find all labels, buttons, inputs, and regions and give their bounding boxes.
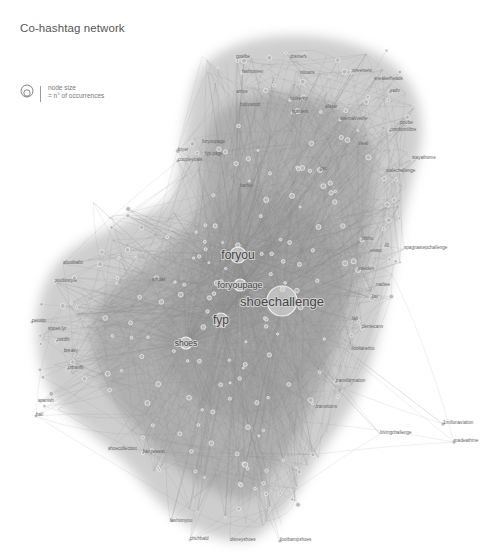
node[interactable] [183,283,186,286]
node[interactable] [211,410,215,414]
node[interactable] [295,467,297,469]
node[interactable] [334,190,337,193]
node[interactable] [243,362,247,366]
node[interactable] [139,225,144,230]
node[interactable] [100,250,104,254]
node[interactable] [151,424,154,427]
node[interactable] [309,141,314,146]
node[interactable] [246,157,250,161]
node[interactable] [178,432,182,436]
node[interactable] [212,194,215,197]
node[interactable] [284,52,287,55]
node[interactable] [222,241,224,243]
node[interactable] [225,267,227,269]
node[interactable] [43,405,46,408]
node[interactable] [389,294,394,299]
node[interactable] [264,197,269,202]
node[interactable] [174,281,176,283]
node[interactable] [246,425,251,430]
node[interactable] [290,193,295,198]
node[interactable] [364,100,369,105]
node[interactable] [194,470,197,473]
node[interactable] [39,342,42,345]
node[interactable] [38,368,42,372]
node[interactable] [336,58,341,63]
node[interactable] [234,161,238,165]
node[interactable] [323,338,325,340]
node[interactable] [267,396,270,399]
node[interactable] [246,467,249,470]
node[interactable] [138,295,142,299]
node[interactable] [351,259,356,264]
node[interactable] [297,487,299,489]
node[interactable] [281,260,285,264]
node[interactable] [316,279,319,282]
node[interactable] [262,526,264,528]
node[interactable] [344,109,348,113]
node[interactable] [142,436,145,439]
node[interactable] [201,409,204,412]
node[interactable] [245,341,247,343]
node[interactable] [140,354,144,358]
node[interactable] [135,256,137,258]
node[interactable] [272,84,275,87]
node[interactable] [366,155,371,160]
node[interactable] [339,135,343,139]
node[interactable] [350,334,354,338]
node[interactable] [287,382,291,386]
node[interactable] [269,507,271,509]
node[interactable] [385,202,390,207]
node[interactable] [111,334,114,337]
node[interactable] [145,400,150,405]
node[interactable] [242,367,244,369]
node[interactable] [105,371,110,376]
node[interactable] [328,181,332,185]
node[interactable] [382,227,385,230]
node[interactable] [293,498,296,501]
node[interactable] [235,452,239,456]
node[interactable] [264,325,268,329]
node[interactable] [259,215,262,218]
node[interactable] [297,470,301,474]
node[interactable] [203,476,205,478]
node[interactable] [178,292,183,297]
node[interactable] [71,360,75,364]
node[interactable] [126,214,130,218]
node[interactable] [394,260,397,263]
node[interactable] [394,178,397,181]
node[interactable] [254,487,257,490]
node[interactable] [116,282,118,284]
node[interactable] [357,129,359,131]
node[interactable] [311,403,313,405]
node[interactable] [316,224,321,229]
node[interactable] [405,115,410,120]
node[interactable] [296,167,300,171]
node[interactable] [82,377,87,382]
node[interactable] [343,261,348,266]
node[interactable] [219,383,223,387]
node[interactable] [366,95,370,99]
node[interactable] [195,231,198,234]
node[interactable] [116,277,119,280]
node[interactable] [320,111,323,114]
node[interactable] [296,502,301,507]
node[interactable] [98,262,103,267]
node[interactable] [262,482,266,486]
node[interactable] [130,336,133,339]
node[interactable] [172,350,175,353]
network-graph[interactable]: shoechallengeforyoufypforyoupageshoesgoa… [0,0,499,556]
node[interactable] [190,141,195,146]
node[interactable] [341,224,345,228]
node[interactable] [212,292,216,296]
node[interactable] [207,296,211,300]
node[interactable] [60,304,65,309]
node[interactable] [118,256,120,258]
node[interactable] [217,67,219,69]
node[interactable] [197,359,201,363]
node[interactable] [201,325,206,330]
node[interactable] [255,401,259,405]
node[interactable] [129,321,133,325]
node[interactable] [237,507,241,511]
node[interactable] [209,441,214,446]
node[interactable] [157,466,160,469]
